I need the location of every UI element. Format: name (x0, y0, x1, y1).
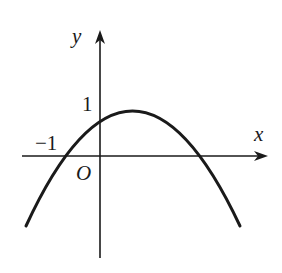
origin-label: O (76, 163, 91, 184)
parabola-curve (26, 111, 240, 226)
y-axis-label: y (72, 26, 81, 47)
x-tick-neg-one-label: −1 (35, 133, 57, 154)
y-tick-one-label: 1 (82, 94, 93, 115)
function-graph: y x 1 −1 O (0, 0, 282, 273)
x-axis-label: x (254, 124, 263, 145)
